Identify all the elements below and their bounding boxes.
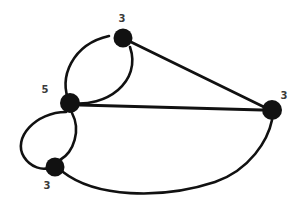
graph-canvas: 3 5 3 3 bbox=[0, 0, 295, 211]
edge-left-top-outer bbox=[66, 36, 109, 103]
vertex-right bbox=[262, 100, 282, 120]
edge-top-right bbox=[131, 42, 264, 107]
graph-figure: 3 5 3 3 bbox=[0, 0, 295, 211]
edge-left-top-inner bbox=[70, 47, 132, 104]
vertex-label-right: 3 bbox=[281, 90, 288, 101]
vertex-label-left: 5 bbox=[42, 84, 49, 95]
edge-left-right bbox=[80, 105, 262, 110]
vertex-left bbox=[60, 93, 80, 113]
edge-left-bottom-inner bbox=[60, 113, 76, 160]
edge-bottom-right bbox=[63, 120, 272, 193]
vertex-label-top: 3 bbox=[119, 13, 126, 24]
vertex-bottom bbox=[46, 158, 65, 177]
vertex-top bbox=[114, 29, 133, 48]
vertex-label-bottom: 3 bbox=[44, 180, 51, 191]
